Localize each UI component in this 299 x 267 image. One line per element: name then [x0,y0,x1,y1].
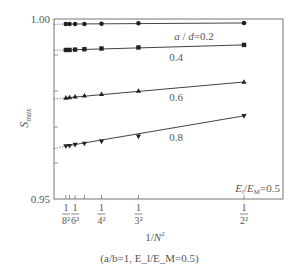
triangle-up-marker [82,93,87,98]
svg-text:2²: 2² [240,215,248,226]
svg-text:1: 1 [242,202,247,213]
x-tick-label: 13² [134,202,142,226]
x-tick-label: 14² [98,202,106,226]
series-label: a / d=0.2 [174,30,214,42]
series-a-d-0-8: 0.8 [54,114,247,149]
square-marker [99,46,103,50]
series-label: 0.4 [169,51,183,63]
annotation-modulus-ratio: El/EM=0.5 [234,182,280,196]
x-axis-label: 1/N2 [115,230,195,243]
circle-marker [67,22,72,27]
square-marker [67,48,71,52]
svg-text:4²: 4² [98,215,106,226]
triangle-up-marker [136,88,141,93]
y-tick-label: 0.95 [31,193,51,205]
x-tick-label: 18² [62,202,70,226]
circle-marker [136,21,141,26]
square-marker [242,43,246,47]
triangle-down-marker [82,142,87,147]
svg-text:1: 1 [73,202,78,213]
square-marker [82,47,86,51]
svg-text:1: 1 [136,202,141,213]
svg-text:6²: 6² [71,215,79,226]
series-a-d-0-4: 0.4 [54,43,246,63]
circle-marker [82,22,87,27]
series-label: 0.8 [169,131,183,143]
svg-text:3²: 3² [134,215,142,226]
square-marker [73,47,77,51]
svg-text:1: 1 [99,202,104,213]
series-a-d-0-2: a / d=0.2 [54,21,246,42]
y-axis-label: Smax [17,108,33,128]
y-tick-label: 1.00 [31,13,51,25]
series-a-d-0-6: 0.6 [54,79,247,103]
x-tick-label: 16² [71,202,79,226]
circle-marker [73,22,78,27]
chart: 1.000.9518²16²14²13²12²Smaxa / d=0.20.40… [0,0,299,267]
triangle-up-marker [99,91,104,96]
x-tick-label: 12² [240,202,248,226]
svg-text:8²: 8² [62,215,70,226]
circle-marker [99,21,104,26]
series-label: 0.6 [169,91,183,103]
square-marker [136,45,140,49]
plot-frame [54,19,283,199]
circle-marker [242,21,247,26]
triangle-down-marker [99,140,104,145]
svg-text:1: 1 [63,202,68,213]
triangle-up-marker [73,94,78,99]
triangle-up-marker [241,79,246,84]
figure-caption: (a/b=1, E_l/E_M=0.5) [0,252,299,264]
triangle-down-marker [136,135,141,140]
